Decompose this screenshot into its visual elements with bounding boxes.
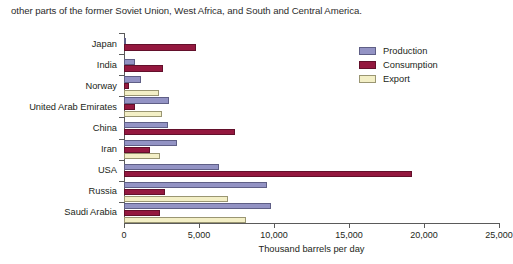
bar-export-united-arab-emirates: [124, 111, 162, 117]
legend-swatch-icon: [359, 47, 376, 55]
bar-production-china: [124, 122, 168, 128]
y-tick-label: Saudi Arabia: [64, 207, 117, 217]
legend-item-export: Export: [359, 73, 489, 85]
legend-swatch-icon: [359, 61, 376, 69]
y-axis-labels: JapanIndiaNorwayUnited Arab EmiratesChin…: [0, 33, 117, 224]
bar-production-saudi-arabia: [124, 203, 271, 209]
x-axis-title: Thousand barrels per day: [124, 244, 499, 254]
x-tick-label: 15,000: [335, 230, 363, 240]
legend-swatch-icon: [359, 75, 376, 83]
x-tick: [424, 224, 425, 228]
bar-consumption-norway: [124, 83, 129, 89]
bar-production-usa: [124, 164, 219, 170]
legend-item-production: Production: [359, 45, 489, 57]
y-tick-label: Iran: [101, 144, 117, 154]
bar-consumption-china: [124, 129, 235, 135]
x-tick: [199, 224, 200, 228]
x-tick: [499, 224, 500, 228]
bar-production-india: [124, 59, 135, 65]
y-tick-label: Russia: [89, 186, 117, 196]
bar-consumption-iran: [124, 147, 150, 153]
bar-production-norway: [124, 76, 141, 82]
x-axis-line: [124, 223, 500, 224]
bar-export-russia: [124, 196, 228, 202]
bar-consumption-russia: [124, 189, 165, 195]
x-tick-label: 25,000: [485, 230, 513, 240]
intro-paragraph: other parts of the former Soviet Union, …: [11, 4, 362, 17]
y-tick-label: Japan: [92, 39, 117, 49]
bar-chart-figure: 05,00010,00015,00020,00025,000 JapanIndi…: [0, 28, 505, 264]
bar-production-iran: [124, 140, 177, 146]
bar-consumption-japan: [124, 44, 196, 50]
bar-consumption-united-arab-emirates: [124, 104, 135, 110]
y-tick-label: Norway: [85, 81, 117, 91]
bar-consumption-saudi-arabia: [124, 210, 160, 216]
chart-legend: ProductionConsumptionExport: [359, 45, 489, 87]
bar-consumption-usa: [124, 171, 412, 177]
bar-export-norway: [124, 90, 159, 96]
bar-production-russia: [124, 182, 267, 188]
bar-production-united-arab-emirates: [124, 97, 169, 103]
bar-export-saudi-arabia: [124, 217, 246, 223]
x-tick-label: 5,000: [188, 230, 211, 240]
x-tick: [349, 224, 350, 228]
legend-label: Production: [383, 46, 427, 56]
bar-export-iran: [124, 153, 160, 159]
x-tick: [274, 224, 275, 228]
y-tick-label: India: [97, 60, 117, 70]
y-tick-label: USA: [98, 165, 117, 175]
legend-item-consumption: Consumption: [359, 59, 489, 71]
x-tick-label: 20,000: [410, 230, 438, 240]
x-tick-label: 0: [121, 230, 126, 240]
y-tick-label: United Arab Emirates: [29, 102, 117, 112]
legend-label: Export: [383, 74, 410, 84]
y-tick-label: China: [93, 123, 117, 133]
legend-label: Consumption: [383, 60, 438, 70]
x-tick-label: 10,000: [260, 230, 288, 240]
bar-production-japan: [124, 38, 126, 44]
x-tick: [124, 224, 125, 228]
bar-consumption-india: [124, 65, 163, 71]
